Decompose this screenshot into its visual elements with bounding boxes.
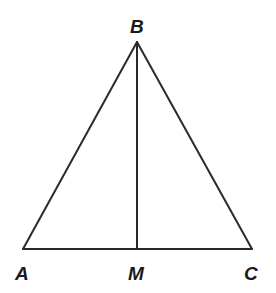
vertex-label-m: M <box>128 263 145 284</box>
vertex-label-b: B <box>130 16 144 37</box>
segment-bc <box>137 42 252 249</box>
vertex-label-c: C <box>244 263 258 284</box>
triangle-diagram: B A M C <box>0 0 276 293</box>
vertex-label-a: A <box>14 263 29 284</box>
segment-ab <box>23 42 137 249</box>
